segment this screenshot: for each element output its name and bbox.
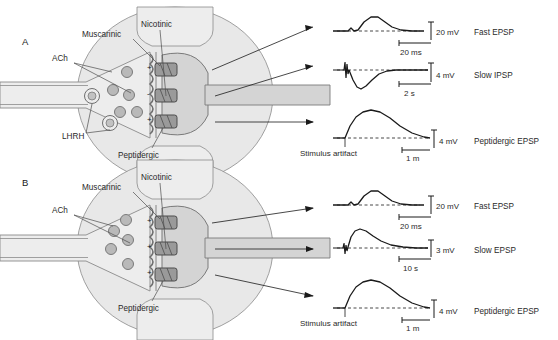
trace-line (349, 70, 428, 89)
time-scale-bar (399, 256, 431, 262)
trace-label: Fast EPSP (474, 202, 515, 211)
time-scale-label: 20 ms (400, 222, 422, 231)
synaptic-transmission-figure: A (0, 0, 558, 340)
trace-line (348, 229, 428, 248)
panel-b-sign-peptidergic: + (147, 268, 152, 277)
panel-a-sign-muscarinic: - (147, 89, 150, 98)
panel-b-label-peptidergic: Peptidergic (118, 304, 159, 313)
time-scale-label: 10 s (403, 264, 418, 273)
trace-label: Slow EPSP (474, 246, 516, 255)
trace-label: Peptidergic EPSP (474, 307, 540, 316)
panel-a-sign-nicotinic: + (147, 63, 152, 72)
panel-a-receptor-peptidergic (155, 115, 177, 128)
voltage-scale-bar (431, 130, 437, 148)
panel-a-sign-peptidergic: + (147, 115, 152, 124)
trace-line (345, 280, 430, 308)
panel-a-letter: A (22, 36, 29, 47)
trace-line (333, 191, 424, 205)
voltage-scale-bar (428, 63, 434, 82)
panel-b-label-nicotinic: Nicotinic (141, 173, 172, 182)
panel-a-trace-fast-epsp: 20 mV 20 ms Fast EPSP (333, 17, 515, 57)
voltage-scale-label: 3 mV (436, 246, 455, 255)
panel-a-receptor-nicotinic (155, 63, 177, 76)
voltage-scale-label: 4 mV (436, 71, 455, 80)
trace-label: Fast EPSP (474, 28, 515, 37)
panel-b-receptor-peptidergic (155, 268, 177, 281)
voltage-scale-label: 20 mV (436, 202, 460, 211)
panel-a-label-ach: ACh (52, 54, 68, 63)
stimulus-artifact-spike (333, 62, 349, 78)
voltage-scale-bar (431, 300, 437, 318)
panel-a-label-muscarinic: Muscarinic (82, 30, 121, 39)
panel-a-label-nicotinic: Nicotinic (141, 20, 172, 29)
stimulus-artifact-spike (333, 243, 348, 254)
time-scale-bar (399, 81, 431, 87)
voltage-scale-label: 20 mV (436, 28, 460, 37)
time-scale-bar (399, 40, 431, 46)
time-scale-label: 20 ms (400, 48, 422, 57)
panel-a-label-lhrh: LHRH (62, 132, 84, 141)
panel-a-trace-slow-ipsp: 4 mV 2 s Slow IPSP (333, 62, 513, 98)
voltage-scale-bar (428, 22, 434, 40)
panel-a: A (0, 7, 540, 183)
stimulus-artifact-label: Stimulus artifact (300, 149, 358, 158)
voltage-scale-label: 4 mV (439, 307, 458, 316)
panel-b-sign-muscarinic: + (147, 242, 152, 251)
time-scale-label: 1 m (406, 154, 420, 163)
voltage-scale-bar (428, 196, 434, 214)
time-scale-label: 1 m (406, 324, 420, 333)
time-scale-bar (399, 214, 431, 220)
panel-b-letter: B (22, 177, 28, 188)
panel-b-trace-peptidergic-epsp: 4 mV 1 m Peptidergic EPSP Stimulus artif… (300, 280, 540, 333)
trace-label: Peptidergic EPSP (474, 137, 540, 146)
voltage-scale-label: 4 mV (439, 137, 458, 146)
panel-a-postsynaptic-axon (205, 85, 330, 105)
panel-b-receptor-nicotinic (155, 216, 177, 229)
time-scale-bar (402, 317, 430, 323)
trace-line (345, 110, 430, 138)
panel-b: B + + (0, 160, 540, 340)
time-scale-label: 2 s (404, 89, 415, 98)
time-scale-bar (402, 147, 430, 153)
trace-label: Slow IPSP (474, 71, 513, 80)
panel-a-trace-peptidergic-epsp: 4 mV 1 m Peptidergic EPSP Stimulus artif… (300, 110, 540, 163)
panel-b-trace-fast-epsp: 20 mV 20 ms Fast EPSP (333, 191, 515, 231)
panel-a-label-peptidergic: Peptidergic (118, 151, 159, 160)
panel-b-label-ach: ACh (52, 206, 68, 215)
stimulus-artifact-label: Stimulus artifact (300, 319, 358, 328)
panel-b-sign-nicotinic: + (147, 216, 152, 225)
voltage-scale-bar (428, 240, 434, 257)
panel-b-label-muscarinic: Muscarinic (82, 183, 121, 192)
trace-line (333, 17, 424, 31)
panel-b-trace-slow-epsp: 3 mV 10 s Slow EPSP (333, 229, 516, 273)
